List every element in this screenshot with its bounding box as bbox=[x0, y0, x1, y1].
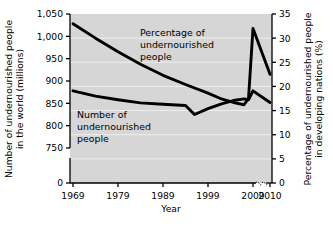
x-tick-label-2010: 2010 bbox=[258, 190, 282, 201]
right-tick-label-5: 5 bbox=[279, 153, 285, 164]
left-tick-label-850: 850 bbox=[45, 98, 63, 109]
annotation-number-line-1: Number of bbox=[77, 109, 127, 120]
right-tick-label-10: 10 bbox=[279, 129, 291, 140]
right-tick-label-35: 35 bbox=[279, 8, 291, 19]
y2-axis-title-line-1: Percentage of undernourished people bbox=[302, 12, 313, 185]
right-tick-label-20: 20 bbox=[279, 81, 291, 92]
left-tick-label-950: 950 bbox=[45, 53, 63, 64]
annotation-number-line-3: people bbox=[77, 133, 109, 144]
right-tick-label-15: 15 bbox=[279, 105, 291, 116]
left-tick-label-800: 800 bbox=[45, 120, 63, 131]
left-tick-label-1,000: 1,000 bbox=[37, 31, 63, 42]
x-axis-title: Year bbox=[160, 203, 181, 214]
x-tick-label-1979: 1979 bbox=[106, 190, 130, 201]
annotation-number-line-2: undernourished bbox=[77, 121, 151, 132]
right-tick-label-30: 30 bbox=[279, 33, 291, 44]
chart-figure: 07508008509009501,0001,050 0510152025303… bbox=[0, 0, 333, 233]
right-tick-label-0: 0 bbox=[279, 177, 285, 188]
y-axis-title-line-1: Number of undernourished people bbox=[3, 20, 14, 178]
x-tick-label-1969: 1969 bbox=[61, 190, 85, 201]
annotation-percentage-line-3: people bbox=[140, 51, 172, 62]
x-tick-label-1989: 1989 bbox=[151, 190, 175, 201]
left-tick-label-0: 0 bbox=[57, 177, 63, 188]
left-tick-label-1,050: 1,050 bbox=[37, 8, 63, 19]
left-tick-label-900: 900 bbox=[45, 75, 63, 86]
left-tick-label-750: 750 bbox=[45, 142, 63, 153]
annotation-percentage-line-2: undernourished bbox=[140, 39, 214, 50]
annotation-percentage-line-1: Percentage of bbox=[140, 27, 205, 38]
x-tick-label-1999: 1999 bbox=[196, 190, 220, 201]
y-axis-title-line-2: in the world (millions) bbox=[14, 49, 25, 149]
y2-axis-title-line-2: in developing nations (%) bbox=[313, 40, 324, 158]
right-tick-label-25: 25 bbox=[279, 57, 291, 68]
undernourishment-line-chart: 07508008509009501,0001,050 0510152025303… bbox=[0, 0, 333, 233]
